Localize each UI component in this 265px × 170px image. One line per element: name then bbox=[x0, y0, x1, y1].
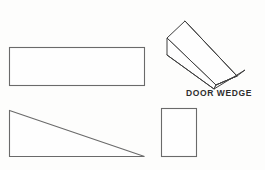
pictorial-wedge bbox=[167, 21, 245, 89]
technical-drawing bbox=[0, 0, 265, 170]
top-view-rectangle bbox=[10, 48, 145, 86]
pictorial-caption: DOOR WEDGE bbox=[186, 88, 264, 98]
end-view-rectangle bbox=[162, 109, 197, 157]
side-view-triangle bbox=[10, 111, 145, 157]
drawing-canvas: DOOR WEDGE bbox=[0, 0, 265, 170]
